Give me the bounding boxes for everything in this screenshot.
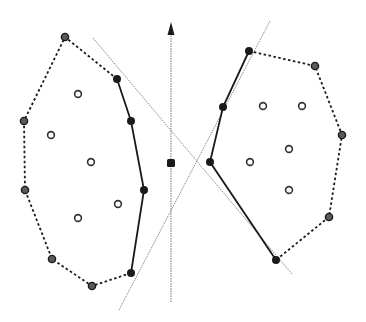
left-hull-vertex (48, 255, 55, 262)
right-chain-vertex (272, 256, 280, 264)
right-interior-point (299, 103, 306, 110)
right-point-set (206, 47, 346, 264)
left-point-set (20, 33, 148, 289)
left-hull-vertex (61, 33, 68, 40)
right-chain-vertex (245, 47, 253, 55)
tangent-line-2 (119, 21, 270, 310)
intersection-point (167, 159, 175, 167)
arrowhead-up-icon (168, 22, 175, 35)
right-chain-vertex (219, 103, 227, 111)
left-solid-chain (117, 79, 144, 273)
right-solid-chain (210, 51, 276, 260)
right-interior-point (260, 103, 267, 110)
right-chain-vertex (206, 158, 214, 166)
right-dashed-hull (249, 51, 342, 260)
left-chain-vertex (140, 186, 148, 194)
left-interior-point (88, 159, 95, 166)
left-chain-vertex (127, 269, 135, 277)
guide-lines (93, 21, 292, 310)
left-hull-vertex (21, 186, 28, 193)
left-dashed-hull (24, 37, 131, 286)
left-hull-vertex (88, 282, 95, 289)
left-hull-vertex (20, 117, 27, 124)
right-hull-vertex (338, 131, 345, 138)
left-interior-point (115, 201, 122, 208)
left-interior-point (75, 215, 82, 222)
right-interior-point (286, 146, 293, 153)
right-interior-point (247, 159, 254, 166)
left-chain-vertex (113, 75, 121, 83)
center-point (167, 159, 175, 167)
left-interior-point (75, 91, 82, 98)
right-hull-vertex (325, 213, 332, 220)
separating-hyperplane-diagram (0, 0, 366, 322)
right-hull-vertex (311, 62, 318, 69)
right-interior-point (286, 187, 293, 194)
left-chain-vertex (127, 117, 135, 125)
left-interior-point (48, 132, 55, 139)
